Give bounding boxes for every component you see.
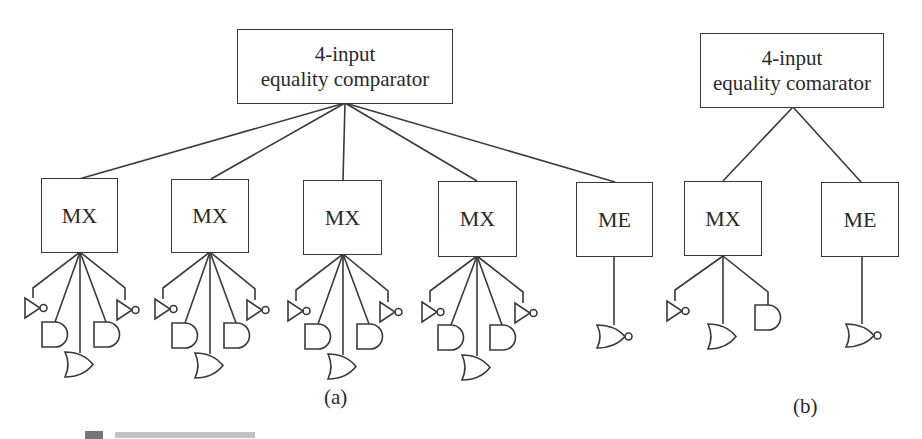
panel-a-module-mx-1: MX bbox=[41, 178, 118, 253]
inverter-gate-icon bbox=[422, 302, 444, 322]
and-gate-icon bbox=[94, 322, 120, 347]
module-label: MX bbox=[192, 203, 227, 229]
module-label: ME bbox=[598, 207, 631, 233]
nor-gate-icon bbox=[597, 325, 632, 348]
panel-a-mx4-gates bbox=[422, 256, 537, 380]
caption-text-cropped bbox=[115, 432, 255, 438]
inverter-gate-icon bbox=[25, 298, 47, 318]
module-label: MX bbox=[460, 206, 495, 232]
and-gate-icon bbox=[42, 322, 68, 347]
comparator-line2: equality comarator bbox=[713, 71, 871, 96]
and-gate-icon bbox=[438, 325, 464, 350]
and-gate-icon bbox=[305, 324, 331, 349]
module-label: MX bbox=[325, 205, 360, 231]
and-gate-icon bbox=[357, 324, 383, 349]
inverter-gate-icon bbox=[515, 303, 537, 323]
and-gate-icon bbox=[490, 325, 516, 350]
inverter-gate-icon bbox=[380, 302, 402, 322]
cropped-figure-caption bbox=[85, 431, 255, 439]
comparator-line1: 4-input bbox=[762, 46, 823, 71]
panel-a-module-mx-3: MX bbox=[303, 180, 382, 255]
panel-a-mx1-gates bbox=[25, 252, 139, 377]
inverter-gate-icon bbox=[247, 300, 269, 320]
or-gate-icon bbox=[195, 353, 223, 378]
or-gate-icon bbox=[462, 355, 490, 380]
nor-gate-icon bbox=[846, 324, 881, 347]
panel-b-caption: (b) bbox=[793, 394, 818, 419]
or-gate-icon bbox=[328, 354, 356, 379]
panel-b-mx-gates bbox=[667, 256, 781, 349]
panel-a-module-mx-2: MX bbox=[171, 179, 249, 253]
comparator-line1: 4-input bbox=[315, 42, 376, 67]
panel-b-module-me: ME bbox=[821, 182, 899, 257]
comparator-line2: equality comparator bbox=[261, 67, 430, 92]
inverter-gate-icon bbox=[667, 301, 689, 321]
or-gate-icon bbox=[708, 324, 736, 349]
module-label: MX bbox=[705, 206, 740, 232]
panel-a-module-mx-4: MX bbox=[438, 181, 517, 257]
panel-a-mx2-gates bbox=[155, 252, 269, 378]
panel-b-comparator-box: 4-input equality comarator bbox=[700, 33, 884, 108]
module-label: MX bbox=[62, 203, 97, 229]
panel-b-me-gates bbox=[846, 256, 881, 347]
panel-a-me-gates bbox=[597, 256, 632, 348]
and-gate-icon bbox=[172, 323, 198, 348]
panel-a-module-me: ME bbox=[576, 182, 653, 257]
panel-a-fanout-lines bbox=[79, 103, 615, 182]
panel-b-module-mx: MX bbox=[684, 181, 762, 256]
and-gate-icon bbox=[755, 305, 781, 330]
inverter-gate-icon bbox=[288, 301, 310, 321]
panel-a-mx3-gates bbox=[288, 254, 402, 379]
panel-a-caption: (a) bbox=[324, 385, 347, 410]
and-gate-icon bbox=[224, 323, 250, 348]
panel-b-fanout-lines bbox=[723, 107, 861, 182]
module-label: ME bbox=[844, 207, 877, 233]
caption-marker-icon bbox=[85, 431, 103, 439]
inverter-gate-icon bbox=[117, 300, 139, 320]
or-gate-icon bbox=[65, 352, 93, 377]
panel-a-comparator-box: 4-input equality comparator bbox=[237, 29, 453, 104]
inverter-gate-icon bbox=[155, 299, 177, 319]
